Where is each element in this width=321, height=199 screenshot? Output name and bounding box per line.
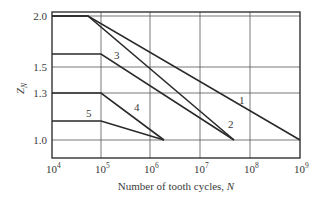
y-tick-1-3: 1.3 <box>33 87 47 99</box>
x-tick-1e6: 106 <box>144 161 159 175</box>
curve-5 <box>52 121 164 140</box>
y-tick-1-5: 1.5 <box>33 61 47 73</box>
y-axis-ticks: 2.0 1.5 1.3 1.0 <box>33 10 47 146</box>
gridlines <box>52 12 300 158</box>
curve-label-3: 3 <box>114 49 120 61</box>
x-tick-1e9: 109 <box>294 161 309 175</box>
x-tick-1e8: 108 <box>244 161 259 175</box>
curve-label-2: 2 <box>228 118 234 130</box>
x-tick-1e7: 107 <box>194 161 209 175</box>
x-tick-1e5: 105 <box>95 161 110 175</box>
curve-label-5: 5 <box>86 107 92 119</box>
x-axis-ticks: 104 105 106 107 108 109 <box>46 161 309 175</box>
curve-4 <box>52 93 164 140</box>
svg-text:ZN: ZN <box>14 82 29 94</box>
curve-label-1: 1 <box>239 94 245 106</box>
y-axis-label: ZN <box>14 82 29 94</box>
curve-label-4: 4 <box>134 101 140 113</box>
y-tick-1-0: 1.0 <box>33 134 47 146</box>
x-tick-1e4: 104 <box>46 161 61 175</box>
chart: 1 2 3 4 5 2.0 1.5 1.3 1.0 ZN 104 105 106… <box>0 0 321 199</box>
curves <box>52 16 300 140</box>
x-axis-label: Number of tooth cycles, N <box>118 180 235 192</box>
plot-frame <box>52 12 300 158</box>
y-label-sub: N <box>20 82 29 89</box>
y-tick-2-0: 2.0 <box>33 10 47 22</box>
